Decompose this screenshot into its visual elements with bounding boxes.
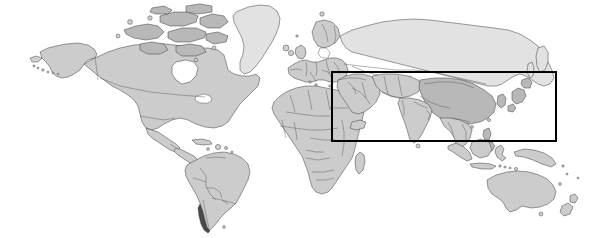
landmass-sumatra [448, 143, 472, 161]
islet-puerto-rico [225, 147, 228, 150]
landmass-great-britain [295, 45, 306, 59]
islet-jamaica [207, 148, 210, 151]
islet-aleutian-6 [57, 73, 59, 75]
landmass-new-zealand-south [560, 203, 573, 216]
world-map-svg [0, 0, 593, 238]
region-south-america[interactable] [185, 152, 250, 233]
water-baltic [318, 48, 330, 58]
islet-aleutian-5 [52, 72, 54, 74]
islet-ireland [288, 50, 293, 55]
landmass-sulawesi [495, 145, 506, 161]
islet-jan-mayen [296, 35, 298, 37]
landmass-korea [497, 94, 506, 108]
region-north-america[interactable] [30, 4, 260, 166]
islet-aleutian-1 [33, 65, 35, 67]
islet-sunda-3 [509, 167, 511, 169]
islet-svalbard [320, 12, 324, 16]
islet-crete [329, 85, 331, 87]
landmass-japan-honshu [512, 88, 526, 104]
landmass-western-europe [288, 58, 348, 82]
islet-taiwan [487, 118, 490, 121]
islet-fiji [577, 177, 579, 179]
landmass-cuba [192, 139, 212, 145]
islet-aleutian-2 [37, 67, 39, 69]
islet-new-caledonia [559, 183, 562, 186]
landmass-java [470, 163, 496, 169]
islet-solomon [562, 165, 564, 167]
islet-vanuatu [566, 173, 568, 175]
islet-aleutian-4 [47, 71, 49, 73]
region-europe[interactable] [288, 20, 348, 87]
landmass-japan-kyushu [508, 104, 516, 112]
islet-aleutian-3 [42, 69, 44, 71]
landmass-mexico [146, 128, 180, 152]
islet-sardinia [309, 81, 311, 83]
islet-sunda-1 [499, 165, 501, 167]
landmass-japan-hokkaido [521, 78, 532, 88]
region-asia[interactable] [337, 19, 554, 151]
landmass-south-america [185, 152, 250, 230]
world-map-container[interactable]: World map Selected region Eurasia: Easte… [0, 0, 593, 238]
landmass-canada-usa [84, 44, 260, 130]
landmass-greenland [233, 5, 280, 74]
islet-sunda-2 [504, 166, 506, 168]
islet-iceland [283, 45, 289, 51]
region-oceania[interactable] [448, 139, 579, 216]
islet-sri-lanka [416, 144, 420, 148]
islet-falkland [223, 226, 226, 229]
islet-alaska-peninsula [30, 56, 42, 62]
landmass-new-zealand-north [570, 194, 578, 203]
landmass-australia [487, 171, 556, 212]
islet-timor [514, 167, 517, 170]
landmass-madagascar [355, 152, 365, 174]
islet-hispaniola [215, 144, 220, 149]
landmass-new-guinea [514, 149, 556, 167]
islet-lesser-antilles-1 [231, 151, 233, 153]
islet-tasmania [539, 212, 543, 216]
landmass-philippines-luzon [483, 128, 491, 140]
islet-hainan [471, 126, 474, 129]
